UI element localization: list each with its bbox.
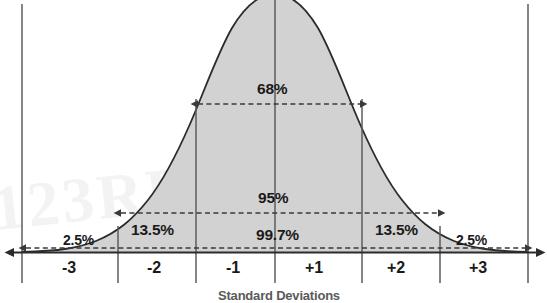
segment-right-tail-label: 2.5%	[456, 232, 487, 248]
segment-left-mid-label: 13.5%	[131, 221, 174, 239]
tick-label-plus2: +2	[387, 259, 405, 277]
band-68-label: 68%	[257, 80, 287, 98]
segment-right-mid-label: 13.5%	[375, 221, 418, 239]
band-997-label: 99.7%	[256, 226, 299, 244]
tick-label-minus3: -3	[62, 259, 76, 277]
x-axis-caption: Standard Deviations	[218, 288, 340, 303]
tick-label-plus3: +3	[469, 259, 487, 277]
tick-label-plus1: +1	[305, 259, 323, 277]
band-95-label: 95%	[258, 189, 288, 207]
segment-left-tail-label: 2.5%	[63, 232, 94, 248]
tick-label-minus1: -1	[226, 259, 240, 277]
tick-label-minus2: -2	[147, 259, 161, 277]
